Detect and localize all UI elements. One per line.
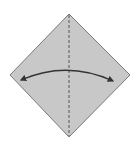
origami-diagram (0, 0, 138, 146)
paper-square (10, 14, 130, 137)
